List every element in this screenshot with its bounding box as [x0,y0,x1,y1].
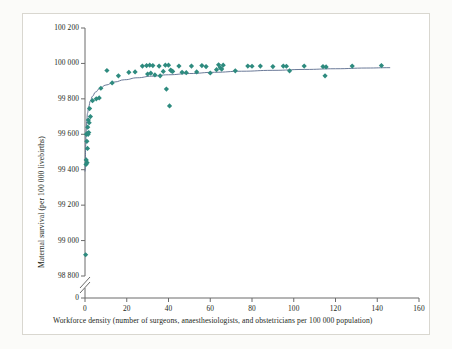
data-point [161,69,166,74]
x-tick-label: 120 [316,304,356,313]
data-point [158,73,163,78]
data-point [208,70,213,75]
y-tick-label: 99 600 [27,129,79,138]
data-point [166,63,171,68]
x-tick-label: 160 [399,304,439,313]
y-tick-label-zero: 0 [27,293,79,302]
fit-curve [85,68,389,172]
data-point [176,63,181,68]
data-point [199,63,204,68]
y-tick-label: 98 800 [27,271,79,280]
data-point [140,63,145,68]
data-point [270,64,275,69]
x-tick-label: 140 [357,304,397,313]
data-point [249,64,254,69]
y-tick-label: 99 400 [27,165,79,174]
data-point [83,252,88,257]
data-points [83,62,384,257]
y-tick-label: 100 000 [27,58,79,67]
x-tick-label: 80 [232,304,272,313]
data-point [116,73,121,78]
data-point [184,70,189,75]
y-tick-label: 100 200 [27,23,79,32]
y-axis-title: Maternal survival (per 100 000 livebirth… [37,136,46,268]
data-point [258,63,263,68]
data-point [133,69,138,74]
x-axis-title: Workforce density (number of surgeons, a… [53,316,372,325]
x-tick-label: 60 [190,304,230,313]
y-tick-label: 99 800 [27,94,79,103]
data-point [233,68,238,73]
axis-ticks [81,28,419,302]
data-point [302,63,307,68]
x-tick-label: 100 [274,304,314,313]
x-tick-label: 0 [65,304,105,313]
data-point [104,68,109,73]
figure-canvas: 98 80099 00099 20099 40099 60099 800100 … [0,0,452,349]
data-point [203,64,208,69]
scatter-plot [23,14,429,334]
data-point [322,73,327,78]
figure-frame: 98 80099 00099 20099 40099 60099 800100 … [22,13,430,335]
data-point [126,70,131,75]
y-tick-label: 99 000 [27,236,79,245]
data-point [110,80,115,85]
data-point [287,68,292,73]
data-point [189,63,194,68]
data-point [150,63,155,68]
x-tick-label: 40 [149,304,189,313]
data-point [167,103,172,108]
data-point [164,87,169,92]
y-tick-label: 99 200 [27,200,79,209]
data-point [284,64,289,69]
x-tick-label: 20 [107,304,147,313]
data-point [157,63,162,68]
